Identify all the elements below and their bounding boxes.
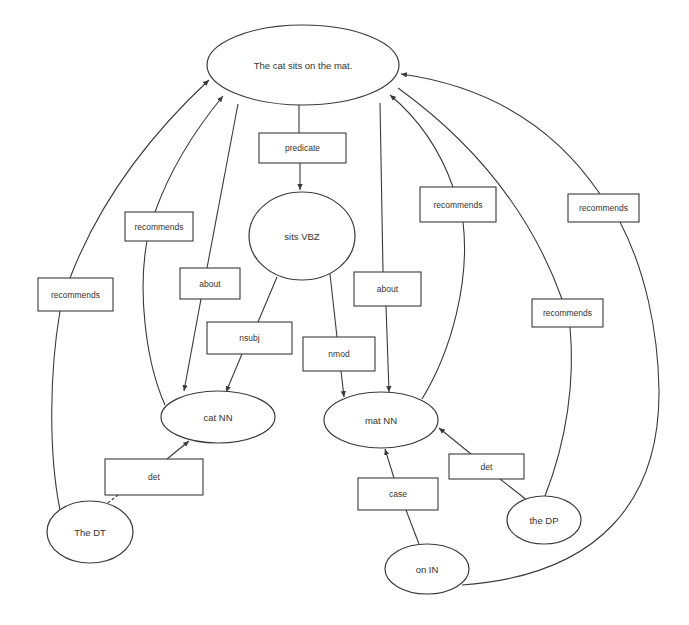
edge-label-text: recommends: [134, 222, 183, 232]
edge-label-nsubj: nsubj: [207, 322, 292, 354]
edge-label-case: case: [358, 478, 438, 510]
edge-nmod-top: [330, 274, 337, 337]
edge-label-rec-mid-right: recommends: [420, 187, 496, 222]
node-sits: sits VBZ: [249, 192, 355, 280]
dependency-graph: The cat sits on the mat.sits VBZcat NNma…: [0, 0, 689, 625]
node-label: mat NN: [365, 415, 397, 426]
edge-about-right-top: [380, 103, 383, 272]
node-label: The DT: [74, 527, 106, 538]
edge-label-rec-left-outer: recommends: [38, 278, 113, 311]
edge-label-about-left: about: [180, 268, 240, 299]
edge-label-text: det: [481, 462, 493, 472]
edge-label-text: recommends: [433, 200, 482, 210]
edge-nsubj-bottom: [226, 354, 242, 392]
node-root: The cat sits on the mat.: [207, 25, 399, 105]
edge-label-rec-dp: recommends: [532, 299, 603, 327]
edge-label-text: recommends: [579, 203, 628, 213]
edge-rec-dp-bottom: [545, 327, 571, 496]
edge-case-bottom: [406, 510, 419, 544]
edge-label-rec-far-right: recommends: [568, 194, 639, 222]
edge-rec-left-outer-bottom: [52, 311, 60, 510]
edge-label-text: case: [389, 489, 407, 499]
edge-case-top: [385, 449, 394, 478]
edge-nsubj-top: [258, 277, 277, 322]
edge-label-text: recommends: [51, 290, 100, 300]
edge-det-left-top: [167, 441, 189, 459]
node-cat: cat NN: [161, 391, 275, 443]
edge-label-text: nmod: [328, 349, 350, 359]
edge-label-text: recommends: [543, 308, 592, 318]
edge-label-text: about: [377, 284, 399, 294]
edge-labels: predicaterecommendsrecommendsaboutnsubjn…: [38, 133, 639, 510]
node-label: cat NN: [203, 412, 232, 423]
edge-label-about-right: about: [354, 272, 421, 306]
edge-label-det-right: det: [449, 454, 524, 479]
node-the-dt: The DT: [47, 501, 133, 563]
edge-rec-far-right-top: [401, 74, 600, 194]
node-label: The cat sits on the mat.: [254, 60, 353, 71]
edge-rec-mid-right-bottom: [422, 222, 465, 399]
edge-rec-mid-right-top: [390, 95, 453, 187]
edge-label-text: nsubj: [239, 333, 259, 343]
edge-det-right-top: [439, 428, 471, 454]
edge-about-left-bottom: [184, 299, 201, 391]
node-label: on IN: [416, 564, 439, 575]
edge-label-text: about: [199, 279, 221, 289]
edge-rec-left-inner-bottom: [143, 241, 165, 405]
edge-rec-left-outer-top: [70, 80, 209, 278]
edge-label-det-left: det: [105, 459, 203, 495]
nodes: The cat sits on the mat.sits VBZcat NNma…: [47, 25, 581, 594]
edge-label-text: det: [148, 472, 160, 482]
edge-label-text: predicate: [285, 143, 320, 153]
node-label: the DP: [529, 515, 558, 526]
edge-about-right-bottom: [386, 306, 389, 392]
node-on-in: on IN: [385, 544, 469, 594]
edge-about-left-top: [207, 104, 238, 268]
edge-det-right-bottom: [500, 479, 528, 501]
edge-nmod-bottom: [341, 371, 344, 397]
edge-label-predicate: predicate: [259, 133, 346, 163]
node-mat: mat NN: [324, 392, 438, 448]
edge-rec-left-inner-top: [155, 96, 223, 212]
edge-label-rec-left-inner: recommends: [125, 212, 193, 241]
node-label: sits VBZ: [284, 231, 320, 242]
node-the-dp: the DP: [507, 496, 581, 544]
edge-label-nmod: nmod: [303, 337, 375, 371]
